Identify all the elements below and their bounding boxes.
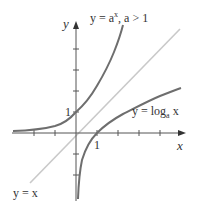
y-axis-label: y xyxy=(61,16,69,31)
y-axis-arrow-icon xyxy=(73,21,79,29)
x-axis-arrow-icon xyxy=(178,130,186,136)
x-axis-label: x xyxy=(176,138,183,153)
exponential-label: y = ax, a > 1 xyxy=(90,10,148,25)
logarithmic-label: y = loga x xyxy=(132,104,179,120)
x-tick-label-1: 1 xyxy=(94,138,100,152)
identity-label: y = x xyxy=(13,186,38,200)
function-graph: y x 1 1 y = ax, a > 1 y = loga x y = x xyxy=(0,0,199,211)
y-tick-label-1: 1 xyxy=(65,105,71,119)
